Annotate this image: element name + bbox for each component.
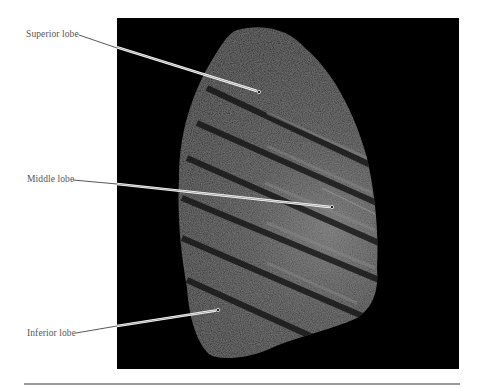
- label-middle-lobe: Middle lobe: [27, 175, 74, 185]
- leader-line-middle: [73, 180, 334, 209]
- label-inferior-lobe: Inferior lobe: [27, 329, 76, 339]
- leader-line-superior: [79, 35, 261, 94]
- label-superior-lobe: Superior lobe: [26, 30, 79, 40]
- anatomy-figure: Superior lobe Middle lobe Inferior lobe: [0, 0, 483, 388]
- leader-line-inferior: [76, 308, 220, 333]
- bottom-divider-rule: [24, 383, 460, 385]
